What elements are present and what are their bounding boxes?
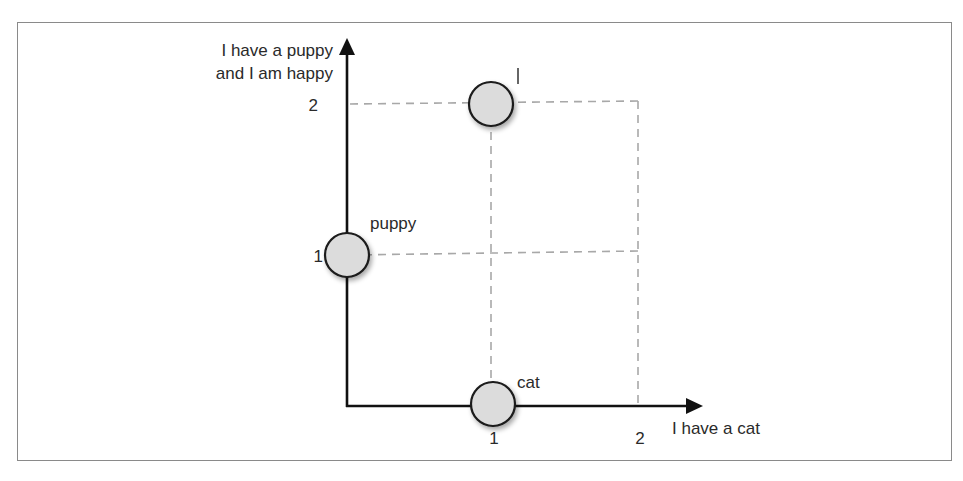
- y-axis-label-line1: I have a puppy: [221, 41, 333, 60]
- x-tick-2: 2: [635, 429, 644, 448]
- y-axis-label-line2: and I am happy: [216, 64, 334, 83]
- dashed-guides: [350, 101, 638, 406]
- node-label-cat: cat: [517, 373, 540, 392]
- dash-y1-horizontal: [350, 251, 638, 255]
- y-axis-arrow-icon: [339, 38, 355, 55]
- x-axis-arrow-icon: [686, 398, 703, 414]
- y-tick-1: 1: [314, 247, 323, 266]
- x-axis-label: I have a cat: [672, 419, 760, 438]
- x-tick-1: 1: [489, 429, 498, 448]
- node-puppy: [325, 233, 369, 277]
- vector-space-diagram: I have a puppy and I am happy 2 1 puppy …: [0, 0, 963, 481]
- node-I: [469, 82, 513, 126]
- node-cat: [471, 382, 515, 426]
- node-label-puppy: puppy: [370, 214, 417, 233]
- y-tick-2: 2: [309, 96, 318, 115]
